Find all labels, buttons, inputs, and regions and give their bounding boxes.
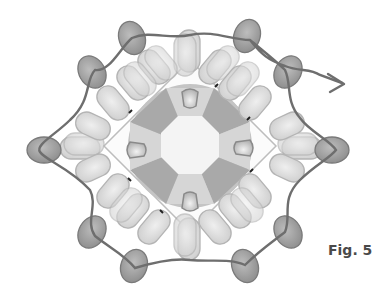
- spike-top-icon: [182, 89, 198, 108]
- spike-bottom-icon: [182, 192, 198, 211]
- spike-right-icon: [234, 140, 253, 156]
- rivoli-center-octagon: [161, 116, 219, 174]
- spike-left-icon: [127, 142, 146, 158]
- thread-exit-arrow-icon: [328, 74, 344, 92]
- figure-label: Fig. 5: [328, 242, 372, 258]
